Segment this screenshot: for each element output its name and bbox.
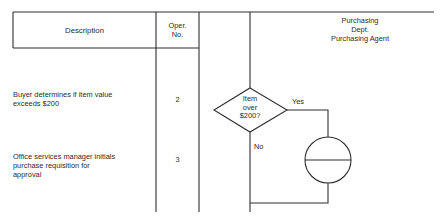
yes-label: Yes: [292, 97, 304, 106]
lane-title-line2: Dept.: [300, 25, 420, 34]
lane-title-line3: Purchasing Agent: [300, 34, 420, 43]
no-label: No: [254, 142, 263, 151]
return-line: [250, 183, 328, 203]
row-description-line: Office services manager initials: [13, 152, 153, 161]
row-oper-no: 2: [156, 95, 199, 104]
row-description: Office services manager initials purchas…: [13, 152, 153, 179]
oper-no-header-line1: Oper.: [156, 21, 199, 30]
lane-title-line1: Purchasing: [300, 16, 420, 25]
row-oper-no: 3: [156, 155, 199, 164]
description-header: Description: [13, 26, 156, 35]
decision-label-line3: $200?: [225, 112, 275, 121]
lane-title: Purchasing Dept. Purchasing Agent: [300, 16, 420, 43]
decision-label: Item over $200?: [225, 95, 275, 121]
oper-no-header: Oper. No.: [156, 21, 199, 39]
row-description-line: Buyer determines if item value: [13, 90, 153, 99]
row-description-line: purchase requisition for: [13, 161, 153, 170]
row-description: Buyer determines if item value exceeds $…: [13, 90, 153, 108]
oper-no-header-line2: No.: [156, 30, 199, 39]
yes-branch-line: [287, 110, 328, 137]
row-description-line: exceeds $200: [13, 99, 153, 108]
row-description-line: approval: [13, 170, 153, 179]
